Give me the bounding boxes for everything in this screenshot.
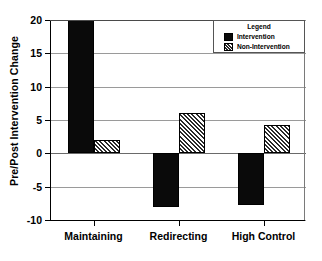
- legend-swatch-solid: [224, 33, 233, 41]
- bar-redirecting-intervention: [153, 153, 179, 206]
- y-tick-5: [45, 120, 51, 121]
- x-axis-label-high-control: High Control: [209, 230, 319, 242]
- bar-redirecting-non-intervention: [179, 113, 205, 154]
- legend-title: Legend: [217, 23, 301, 31]
- bar-high-control-intervention: [238, 153, 264, 205]
- gridline-y-0: [51, 153, 306, 154]
- bar-chart-figure: Pre/Post Intervention Change 20151050-5-…: [0, 0, 322, 261]
- y-tick-label--5: -5: [11, 182, 42, 193]
- y-tick-label--10: -10: [11, 215, 42, 226]
- legend-entry-non-intervention: Non-Intervention: [224, 42, 301, 52]
- gridline-y--5: [51, 187, 306, 188]
- chart-legend: Legend InterventionNon-Intervention: [213, 20, 305, 53]
- y-tick-15: [45, 53, 51, 54]
- bar-high-control-non-intervention: [264, 125, 290, 153]
- y-tick-label-10: 10: [11, 82, 42, 93]
- y-tick-10: [45, 87, 51, 88]
- legend-swatch-hatch: [224, 43, 233, 51]
- bar-maintaining-intervention: [68, 20, 94, 153]
- y-tick-label-20: 20: [11, 15, 42, 26]
- x-axis-line: [50, 220, 305, 221]
- legend-entry-intervention: Intervention: [224, 32, 301, 42]
- legend-label: Non-Intervention: [237, 43, 290, 51]
- legend-label: Intervention: [237, 33, 275, 41]
- bar-maintaining-non-intervention: [94, 140, 120, 153]
- legend-entries: InterventionNon-Intervention: [217, 32, 301, 52]
- y-tick-label-5: 5: [11, 115, 42, 126]
- y-tick-0: [45, 153, 51, 154]
- y-tick--5: [45, 187, 51, 188]
- y-tick-label-0: 0: [11, 148, 42, 159]
- y-tick-label-15: 15: [11, 48, 42, 59]
